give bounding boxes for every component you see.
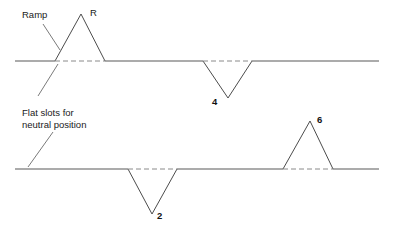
leader-line-flat-slot-lower (28, 132, 53, 167)
label-flat-slots-line-1: Flat slots for (22, 107, 74, 118)
leader-line-flat-slot-upper (38, 64, 58, 96)
label-detent-2: 2 (157, 210, 162, 221)
diagram-root: Ramp R Flat slots for neutral position 4… (0, 0, 398, 230)
label-ramp-peak-r: R (90, 7, 97, 18)
upper-rail-group (15, 14, 379, 98)
label-ramp-6: 6 (317, 114, 322, 125)
detent-4-profile (203, 61, 252, 98)
ramp-6-profile (283, 121, 333, 169)
ramp-profile-diagram: Ramp R Flat slots for neutral position 4… (0, 0, 398, 230)
label-flat-slots-line-2: neutral position (22, 119, 86, 130)
leader-line-ramp (43, 24, 60, 50)
detent-2-profile (128, 169, 177, 214)
label-ramp: Ramp (22, 9, 47, 20)
ramp-r-profile (55, 14, 105, 61)
lower-rail-group (15, 121, 379, 214)
leader-lines-group (28, 24, 60, 167)
label-detent-4: 4 (212, 96, 218, 107)
